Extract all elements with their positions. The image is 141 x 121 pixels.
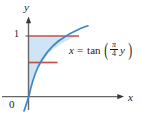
equation-fraction: π 4 — [111, 41, 117, 59]
equation-open-paren: ( — [104, 43, 108, 56]
equation-argument-variable: y — [120, 44, 125, 56]
equation-equals-sign: = — [77, 44, 83, 56]
y-axis-arrowhead — [26, 17, 31, 24]
y-tick-label-one: 1 — [14, 29, 19, 39]
figure-container: y x 1 0 x = tan ( π 4 y ) — [0, 0, 141, 121]
x-axis-label: x — [128, 92, 133, 103]
equation-close-paren: ) — [128, 43, 132, 56]
equation-fraction-denominator: 4 — [110, 49, 118, 58]
equation-function-name: tan — [87, 44, 100, 56]
equation-fraction-numerator: π — [111, 41, 117, 49]
curve-equation-label: x = tan ( π 4 y ) — [69, 41, 133, 59]
x-axis-arrowhead — [117, 94, 124, 99]
equation-lhs: x — [69, 44, 74, 56]
plot-canvas — [0, 0, 141, 121]
y-axis-label: y — [24, 2, 29, 13]
origin-label-zero: 0 — [9, 99, 15, 110]
